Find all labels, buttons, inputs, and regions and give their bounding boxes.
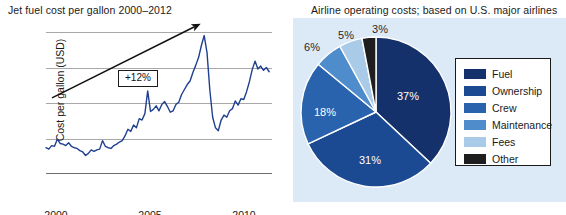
legend-swatch-other	[464, 154, 486, 164]
legend-item-maintenance[interactable]: Maintenance	[464, 117, 550, 133]
trend-callout-label: +12%	[118, 70, 158, 87]
legend-swatch-ownership	[464, 86, 486, 96]
legend-label: Crew	[492, 102, 517, 114]
line-chart-title: Jet fuel cost per gallon 2000–2012	[8, 4, 172, 16]
pie-value-maintenance: 6%	[304, 41, 320, 53]
legend-label: Ownership	[492, 85, 542, 97]
legend-item-fees[interactable]: Fees	[464, 134, 550, 150]
pie-value-crew: 18%	[314, 106, 336, 118]
figure-root: Jet fuel cost per gallon 2000–2012 $4 3 …	[0, 0, 566, 215]
legend-label: Fees	[492, 136, 515, 148]
x-tick-2010: 2010	[232, 209, 255, 215]
x-tick-2000: 2000	[44, 209, 67, 215]
x-tick-2005: 2005	[138, 209, 161, 215]
legend-label: Other	[492, 153, 518, 165]
pie-chart-title: Airline operating costs; based on U.S. m…	[311, 4, 557, 16]
legend-swatch-fees	[464, 137, 486, 147]
legend-item-other[interactable]: Other	[464, 151, 550, 167]
legend-swatch-crew	[464, 103, 486, 113]
pie-value-ownership: 31%	[359, 154, 381, 166]
legend-label: Fuel	[492, 68, 512, 80]
trend-arrow-icon	[46, 32, 272, 174]
legend-item-ownership[interactable]: Ownership	[464, 83, 550, 99]
legend-item-fuel[interactable]: Fuel	[464, 66, 550, 82]
pie-chart-panel: 37% 31% 18% 6% 5% 3% FuelOwnershipCrewMa…	[293, 18, 566, 202]
line-chart-panel: Jet fuel cost per gallon 2000–2012 $4 3 …	[0, 0, 290, 215]
pie-graphic: 37% 31% 18% 6% 5% 3%	[300, 36, 452, 188]
pie-legend: FuelOwnershipCrewMaintenanceFeesOther	[455, 58, 551, 166]
pie-value-fuel: 37%	[397, 90, 419, 102]
pie-value-fees: 5%	[338, 29, 354, 41]
legend-swatch-maintenance	[464, 120, 486, 130]
line-chart-plot-area: $4 3 2 1 0 2000 2005 2010 Cost per gallo…	[46, 32, 272, 174]
legend-swatch-fuel	[464, 69, 486, 79]
pie-value-other: 3%	[372, 23, 388, 35]
legend-label: Maintenance	[492, 119, 552, 131]
legend-item-crew[interactable]: Crew	[464, 100, 550, 116]
